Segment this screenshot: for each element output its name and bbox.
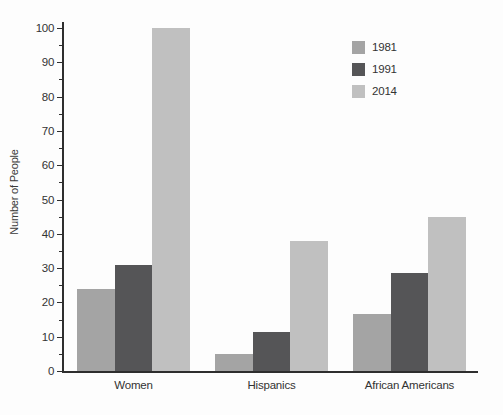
y-minor-tick	[59, 354, 62, 355]
y-major-tick	[57, 200, 62, 201]
bar-1991-african-americans	[391, 273, 429, 371]
bar-1991-women	[115, 265, 153, 371]
y-major-tick	[57, 165, 62, 166]
legend-label: 1991	[372, 63, 397, 76]
y-minor-tick	[59, 148, 62, 149]
bar-1981-hispanics	[215, 354, 253, 371]
legend-label: 2014	[372, 85, 397, 98]
legend-item-2014: 2014	[352, 84, 397, 98]
y-major-tick	[57, 28, 62, 29]
y-tick-label: 20	[24, 297, 54, 308]
x-category-label: African Americans	[350, 379, 470, 391]
y-axis-title: Number of People	[8, 132, 20, 252]
bar-1981-women	[77, 289, 115, 371]
y-minor-tick	[59, 79, 62, 80]
y-major-tick	[57, 371, 62, 372]
y-minor-tick	[59, 320, 62, 321]
y-tick-label: 60	[24, 160, 54, 171]
y-tick-label: 100	[24, 23, 54, 34]
y-tick-label: 0	[24, 366, 54, 377]
x-axis-line	[62, 371, 478, 373]
y-tick-label: 30	[24, 263, 54, 274]
y-major-tick	[57, 234, 62, 235]
y-minor-tick	[59, 114, 62, 115]
y-tick-label: 90	[24, 57, 54, 68]
bar-chart-figure: Number of People 0102030405060708090100W…	[0, 0, 503, 415]
x-category-label: Women	[74, 379, 194, 391]
y-axis-line	[62, 22, 64, 373]
legend: 198119912014	[352, 40, 397, 106]
y-minor-tick	[59, 251, 62, 252]
legend-swatch-2014	[352, 85, 365, 98]
y-minor-tick	[59, 217, 62, 218]
y-minor-tick	[59, 285, 62, 286]
bar-1981-african-americans	[353, 314, 391, 371]
y-major-tick	[57, 131, 62, 132]
bar-2014-hispanics	[290, 241, 328, 371]
y-tick-label: 40	[24, 229, 54, 240]
y-minor-tick	[59, 182, 62, 183]
y-major-tick	[57, 62, 62, 63]
y-major-tick	[57, 302, 62, 303]
y-major-tick	[57, 268, 62, 269]
bar-2014-african-americans	[428, 217, 466, 371]
y-tick-label: 70	[24, 126, 54, 137]
y-minor-tick	[59, 45, 62, 46]
legend-swatch-1991	[352, 63, 365, 76]
y-tick-label: 10	[24, 332, 54, 343]
legend-item-1981: 1981	[352, 40, 397, 54]
legend-swatch-1981	[352, 41, 365, 54]
y-major-tick	[57, 337, 62, 338]
bar-1991-hispanics	[253, 332, 291, 371]
y-tick-label: 80	[24, 92, 54, 103]
legend-label: 1981	[372, 41, 397, 54]
bar-2014-women	[152, 28, 190, 371]
y-major-tick	[57, 97, 62, 98]
y-tick-label: 50	[24, 195, 54, 206]
legend-item-1991: 1991	[352, 62, 397, 76]
x-category-label: Hispanics	[212, 379, 332, 391]
